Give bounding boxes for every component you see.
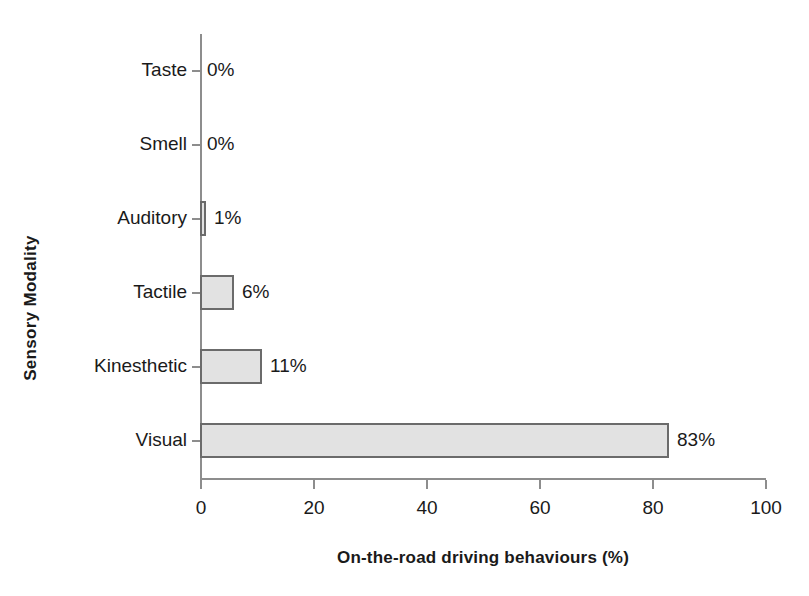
- y-tick-label-taste: Taste: [142, 56, 187, 84]
- y-tick-label-tactile: Tactile: [133, 278, 187, 306]
- bar-chart: Sensory Modality Taste 0% Smell 0% Audit…: [0, 0, 809, 596]
- y-tick-auditory: [192, 218, 200, 220]
- x-tick-20: [313, 480, 315, 489]
- y-tick-label-auditory: Auditory: [117, 204, 187, 232]
- x-tick-60: [539, 480, 541, 489]
- bar-row-smell: Smell 0%: [200, 108, 766, 182]
- x-tick-label-0: 0: [161, 495, 241, 521]
- x-tick-label-80: 80: [613, 495, 693, 521]
- y-tick-visual: [192, 440, 200, 442]
- bar-value-visual: 83%: [677, 426, 715, 454]
- y-tick-label-smell: Smell: [139, 130, 187, 158]
- bar-tactile: [200, 275, 234, 310]
- bar-value-taste: 0%: [207, 56, 234, 84]
- bar-kinesthetic: [200, 349, 262, 384]
- y-tick-label-kinesthetic: Kinesthetic: [94, 352, 187, 380]
- x-tick-80: [652, 480, 654, 489]
- bar-row-visual: Visual 83%: [200, 404, 766, 478]
- bar-visual: [200, 423, 669, 458]
- x-tick-100: [765, 480, 767, 489]
- plot-area: Taste 0% Smell 0% Auditory 1% Tactile 6%: [200, 34, 766, 478]
- bar-row-taste: Taste 0%: [200, 34, 766, 108]
- bar-value-kinesthetic: 11%: [270, 352, 307, 380]
- x-tick-label-100: 100: [726, 495, 806, 521]
- x-axis-title: On-the-road driving behaviours (%): [200, 548, 766, 568]
- y-tick-taste: [192, 70, 200, 72]
- x-axis-line: [200, 478, 766, 480]
- y-axis-title: Sensory Modality: [17, 138, 45, 478]
- bar-row-kinesthetic: Kinesthetic 11%: [200, 330, 766, 404]
- bar-value-smell: 0%: [207, 130, 234, 158]
- bar-row-auditory: Auditory 1%: [200, 182, 766, 256]
- x-tick-label-60: 60: [500, 495, 580, 521]
- y-tick-smell: [192, 144, 200, 146]
- y-tick-label-visual: Visual: [136, 426, 187, 454]
- x-tick-0: [200, 480, 202, 489]
- x-tick-label-20: 20: [274, 495, 354, 521]
- x-tick-40: [426, 480, 428, 489]
- bar-row-tactile: Tactile 6%: [200, 256, 766, 330]
- x-tick-label-40: 40: [387, 495, 467, 521]
- y-tick-kinesthetic: [192, 366, 200, 368]
- bar-value-auditory: 1%: [214, 204, 241, 232]
- bar-value-tactile: 6%: [242, 278, 269, 306]
- y-tick-tactile: [192, 292, 200, 294]
- bar-auditory: [200, 201, 206, 236]
